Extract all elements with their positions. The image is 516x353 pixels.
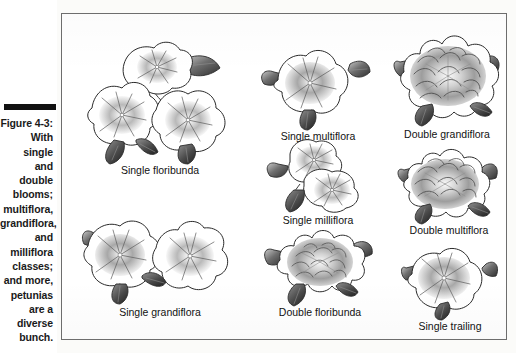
caption-line-6: milliflora bbox=[0, 245, 53, 259]
specimen-label-double-multiflora: Double multiflora bbox=[410, 224, 489, 236]
caption-line-0: With single bbox=[0, 130, 53, 159]
caption-line-3: multiflora, bbox=[0, 202, 53, 216]
specimen-label-single-milliflora: Single milliflora bbox=[283, 214, 354, 226]
specimen-double-multiflora: Double multiflora bbox=[396, 144, 502, 242]
caption-rule bbox=[4, 104, 56, 110]
specimen-label-single-floribunda: Single floribunda bbox=[121, 164, 199, 176]
specimen-label-double-floribunda: Double floribunda bbox=[279, 306, 361, 318]
specimen-double-floribunda: Double floribunda bbox=[262, 226, 378, 326]
caption-line-8: and more, bbox=[0, 273, 53, 287]
specimen-label-double-grandiflora: Double grandiflora bbox=[404, 128, 490, 140]
caption-line-9: petunias bbox=[0, 288, 53, 302]
caption-line-2: blooms; bbox=[0, 187, 53, 201]
figure-caption: Figure 4-3: With single and double bloom… bbox=[0, 116, 53, 345]
caption-line-7: classes; bbox=[0, 259, 53, 273]
specimen-single-floribunda: Single floribunda bbox=[80, 36, 240, 186]
caption-line-1: and double bbox=[0, 159, 53, 188]
specimen-label-single-trailing: Single trailing bbox=[418, 320, 481, 332]
caption-line-10: are a bbox=[0, 302, 53, 316]
specimen-single-trailing: Single trailing bbox=[400, 244, 500, 336]
figure-page: Figure 4-3: With single and double bloom… bbox=[0, 0, 516, 353]
specimen-single-grandiflora: Single grandiflora bbox=[80, 214, 240, 324]
specimen-label-single-grandiflora: Single grandiflora bbox=[119, 306, 201, 318]
specimen-single-milliflora: Single milliflora bbox=[264, 132, 372, 232]
caption-line-4: grandiflora, bbox=[0, 216, 53, 230]
specimen-double-grandiflora: Double grandiflora bbox=[392, 32, 502, 144]
caption-line-12: bunch. bbox=[0, 330, 53, 344]
caption-line-5: and bbox=[0, 230, 53, 244]
figure-frame: Single floribunda bbox=[61, 13, 507, 340]
caption-line-11: diverse bbox=[0, 316, 53, 330]
figure-caption-column: Figure 4-3: With single and double bloom… bbox=[0, 0, 57, 353]
figure-label: Figure 4-3: bbox=[0, 116, 53, 130]
